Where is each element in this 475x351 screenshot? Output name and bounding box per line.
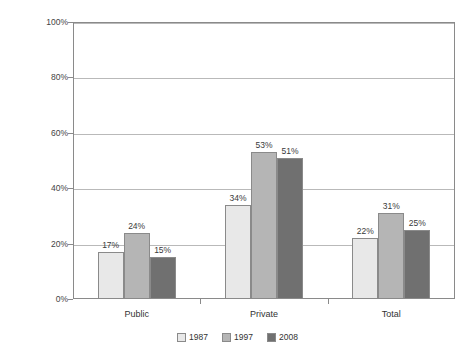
legend-label: 1997 <box>234 332 253 342</box>
y-tick-label: 60% <box>36 127 68 139</box>
y-tick-mark <box>68 299 73 300</box>
bar-total-2008 <box>404 230 430 299</box>
bar-value-label: 51% <box>270 145 310 157</box>
gridline-80 <box>74 78 454 79</box>
y-tick-label: 40% <box>36 182 68 194</box>
x-category-label-total: Total <box>331 307 451 321</box>
legend-item-2008[interactable]: 2008 <box>267 332 298 342</box>
x-category-label-private: Private <box>204 307 324 321</box>
y-axis-title: Percentage of Elementary Schools <box>0 0 16 54</box>
x-tick-mark <box>328 299 329 304</box>
bar-total-1987 <box>352 238 378 299</box>
y-tick-label: 0% <box>36 293 68 305</box>
bar-public-1987 <box>98 252 124 299</box>
bar-public-1997 <box>124 233 150 299</box>
x-tick-mark <box>200 299 201 304</box>
legend-item-1987[interactable]: 1987 <box>177 332 208 342</box>
legend-item-1997[interactable]: 1997 <box>222 332 253 342</box>
legend-label: 1987 <box>189 332 208 342</box>
gridline-100 <box>74 23 454 24</box>
bar-chart: Percentage of Elementary Schools 0%20%40… <box>0 0 475 351</box>
y-tick-mark <box>68 188 73 189</box>
gridline-60 <box>74 134 454 135</box>
bar-private-1987 <box>225 205 251 299</box>
chart-legend: 198719972008 <box>0 329 475 345</box>
legend-swatch-icon <box>267 333 276 342</box>
y-tick-mark <box>68 244 73 245</box>
bar-value-label: 31% <box>371 200 411 212</box>
y-tick-mark <box>68 133 73 134</box>
x-category-label-public: Public <box>77 307 197 321</box>
y-tick-label: 20% <box>36 238 68 250</box>
y-tick-mark <box>68 22 73 23</box>
y-tick-mark <box>68 77 73 78</box>
bar-public-2008 <box>150 257 176 299</box>
bar-private-1997 <box>251 152 277 299</box>
legend-swatch-icon <box>222 333 231 342</box>
bar-private-2008 <box>277 158 303 299</box>
y-tick-label: 80% <box>36 71 68 83</box>
bar-value-label: 15% <box>143 244 183 256</box>
bar-value-label: 24% <box>117 220 157 232</box>
legend-swatch-icon <box>177 333 186 342</box>
y-tick-label: 100% <box>36 16 68 28</box>
legend-label: 2008 <box>279 332 298 342</box>
bar-value-label: 25% <box>397 217 437 229</box>
